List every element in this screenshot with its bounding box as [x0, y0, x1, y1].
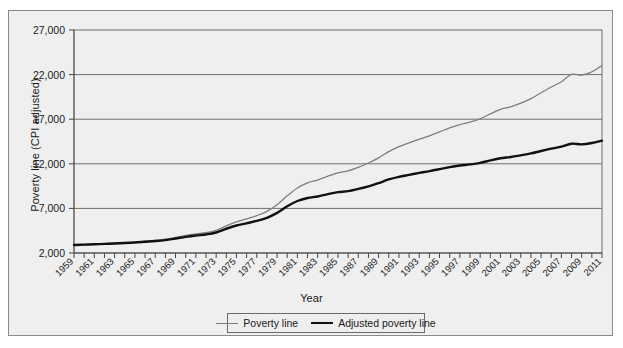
svg-text:1973: 1973 — [195, 256, 218, 279]
svg-text:1991: 1991 — [378, 256, 401, 279]
svg-text:1967: 1967 — [134, 256, 157, 279]
axes-group — [69, 30, 602, 254]
legend-item-adjusted-poverty-line: Adjusted poverty line — [311, 317, 435, 329]
svg-text:1975: 1975 — [215, 256, 238, 279]
svg-text:2,000: 2,000 — [39, 247, 65, 259]
svg-text:1989: 1989 — [357, 256, 380, 279]
svg-text:1965: 1965 — [114, 256, 137, 279]
svg-text:2001: 2001 — [479, 256, 502, 279]
svg-text:1987: 1987 — [337, 256, 360, 279]
svg-text:1995: 1995 — [418, 256, 441, 279]
svg-text:1969: 1969 — [154, 256, 177, 279]
line-chart-canvas: 27,00022,00017,00012,0007,0002,000 19591… — [9, 11, 614, 337]
svg-text:7,000: 7,000 — [39, 202, 65, 214]
svg-text:27,000: 27,000 — [33, 24, 65, 36]
series-lines-group — [74, 66, 602, 245]
gridlines-group — [74, 30, 602, 208]
svg-text:1981: 1981 — [276, 256, 299, 279]
legend-swatch-icon — [311, 322, 333, 324]
svg-text:1993: 1993 — [398, 256, 421, 279]
svg-text:1985: 1985 — [317, 256, 340, 279]
svg-text:1971: 1971 — [175, 256, 198, 279]
svg-text:2007: 2007 — [540, 256, 563, 279]
chart-figure: 27,00022,00017,00012,0007,0002,000 19591… — [0, 0, 623, 348]
svg-text:1997: 1997 — [439, 256, 462, 279]
svg-text:2011: 2011 — [581, 256, 603, 278]
x-tick-labels-group: 1959196119631965196719691971197319751977… — [53, 256, 604, 279]
y-axis-title: Poverty line (CPI adjusted) — [29, 45, 41, 245]
svg-text:2003: 2003 — [499, 256, 522, 279]
svg-text:2005: 2005 — [520, 256, 543, 279]
svg-text:1999: 1999 — [459, 256, 482, 279]
svg-text:1977: 1977 — [235, 256, 258, 279]
legend-item-poverty-line: Poverty line — [216, 317, 298, 329]
legend-label: Adjusted poverty line — [338, 317, 435, 329]
x-axis-title: Year — [9, 292, 614, 304]
x-tick-marks-group — [74, 253, 602, 258]
svg-text:1961: 1961 — [73, 256, 96, 279]
svg-text:1979: 1979 — [256, 256, 279, 279]
svg-text:1963: 1963 — [93, 256, 116, 279]
legend-label: Poverty line — [243, 317, 298, 329]
chart-frame: 27,00022,00017,00012,0007,0002,000 19591… — [8, 10, 613, 336]
svg-text:2009: 2009 — [560, 256, 583, 279]
svg-text:1959: 1959 — [53, 256, 76, 279]
svg-text:1983: 1983 — [296, 256, 319, 279]
chart-legend: Poverty line Adjusted poverty line — [227, 313, 425, 333]
legend-swatch-icon — [216, 323, 238, 324]
